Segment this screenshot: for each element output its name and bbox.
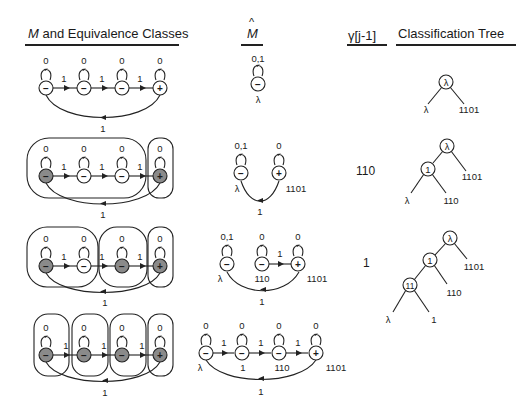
svg-text:−: − (119, 83, 125, 94)
svg-text:1101: 1101 (286, 183, 306, 194)
svg-text:1: 1 (99, 161, 104, 172)
svg-text:λ: λ (256, 94, 261, 105)
svg-text:−: − (43, 261, 49, 272)
svg-text:0: 0 (313, 320, 318, 331)
svg-text:+: + (157, 83, 163, 94)
svg-text:1: 1 (277, 248, 282, 259)
svg-text:0: 0 (239, 320, 244, 331)
svg-text:1: 1 (425, 164, 430, 175)
svg-text:0: 0 (259, 231, 264, 242)
svg-text:0,1: 0,1 (251, 53, 264, 64)
svg-text:1: 1 (99, 251, 104, 262)
svg-text:−: − (81, 261, 87, 272)
svg-text:0: 0 (157, 143, 162, 154)
svg-text:−: − (119, 171, 125, 182)
svg-text:1: 1 (61, 161, 66, 172)
svg-text:+: + (157, 261, 163, 272)
svg-text:0: 0 (203, 320, 208, 331)
svg-text:−: − (255, 79, 261, 90)
svg-text:+: + (295, 259, 301, 270)
svg-text:11: 11 (406, 281, 415, 291)
svg-text:1101: 1101 (326, 362, 346, 373)
svg-text:0: 0 (119, 143, 124, 154)
svg-text:λ: λ (444, 77, 449, 88)
classification-tree-row-2 (411, 139, 466, 193)
svg-text:1: 1 (258, 386, 263, 397)
svg-text:λ: λ (218, 273, 223, 284)
svg-text:−: − (43, 83, 49, 94)
svg-text:0,1: 0,1 (220, 231, 233, 242)
svg-text:0: 0 (157, 55, 162, 66)
svg-text:1: 1 (101, 340, 106, 351)
svg-text:0: 0 (119, 233, 124, 244)
svg-text:0: 0 (81, 233, 86, 244)
svg-text:1: 1 (221, 337, 226, 348)
svg-text:−: − (239, 348, 245, 359)
svg-text:1: 1 (61, 73, 66, 84)
classification-tree-row-3 (393, 231, 467, 312)
svg-text:−: − (43, 350, 49, 361)
m-hat-row-3: − − + 0,1 0 0 1 λ 110 1101 1 (218, 231, 328, 307)
diagram-canvas: − − − + 0 0 0 0 1 1 1 1 − 0,1 λ λ λ 1101 (0, 0, 521, 418)
svg-text:1: 1 (100, 209, 105, 220)
svg-text:110: 110 (254, 273, 269, 284)
svg-text:110: 110 (446, 287, 461, 298)
svg-text:+: + (157, 171, 163, 182)
svg-text:1101: 1101 (464, 261, 484, 272)
svg-text:110: 110 (274, 362, 289, 373)
m-hat-row-2: − + 0,1 0 λ 1101 1 (234, 140, 306, 217)
svg-text:1: 1 (257, 206, 262, 217)
m-hat-row-1: − 0,1 λ (251, 53, 265, 105)
svg-text:1101: 1101 (459, 104, 479, 115)
svg-text:1: 1 (139, 340, 144, 351)
svg-text:1: 1 (431, 314, 436, 325)
svg-text:−: − (81, 83, 87, 94)
svg-text:−: − (119, 350, 125, 361)
svg-text:λ: λ (445, 141, 450, 152)
svg-text:1: 1 (240, 362, 245, 373)
svg-text:−: − (81, 350, 87, 361)
svg-text:0: 0 (43, 143, 48, 154)
svg-text:+: + (157, 350, 163, 361)
svg-text:−: − (81, 171, 87, 182)
svg-text:λ: λ (448, 233, 453, 244)
svg-text:λ: λ (198, 362, 203, 373)
m-automaton-row-2: − − − + 0 0 0 0 1 1 1 1 (27, 138, 173, 220)
svg-text:1: 1 (99, 73, 104, 84)
svg-text:1: 1 (258, 337, 263, 348)
svg-text:0: 0 (43, 233, 48, 244)
svg-text:1: 1 (427, 255, 432, 266)
svg-text:1: 1 (61, 251, 66, 262)
svg-text:−: − (224, 259, 230, 270)
svg-text:+: + (313, 348, 319, 359)
svg-text:1101: 1101 (462, 171, 482, 182)
svg-text:1: 1 (259, 296, 264, 307)
svg-text:1101: 1101 (307, 273, 327, 284)
svg-text:1: 1 (295, 337, 300, 348)
svg-text:0: 0 (43, 322, 48, 333)
svg-text:+: + (276, 168, 282, 179)
m-automaton-row-1: − − − + 0 0 0 0 1 1 1 1 (39, 55, 167, 134)
svg-text:1: 1 (137, 161, 142, 172)
svg-text:1: 1 (137, 73, 142, 84)
svg-text:−: − (203, 348, 209, 359)
svg-text:110: 110 (443, 195, 458, 206)
m-automaton-row-4: − − − + 0 0 0 0 1 1 1 1 (34, 314, 173, 398)
svg-text:1: 1 (137, 251, 142, 262)
m-hat-row-4: − − − + 0 0 0 0 1 1 1 λ 1 110 1101 1 (198, 320, 347, 397)
svg-text:1: 1 (100, 123, 105, 134)
svg-text:λ: λ (235, 183, 240, 194)
svg-text:λ: λ (424, 104, 429, 115)
svg-text:−: − (43, 171, 49, 182)
svg-text:0: 0 (43, 55, 48, 66)
svg-text:0: 0 (276, 140, 281, 151)
svg-text:0: 0 (157, 322, 162, 333)
svg-text:−: − (119, 261, 125, 272)
svg-text:0: 0 (119, 322, 124, 333)
svg-text:0: 0 (81, 55, 86, 66)
svg-text:λ: λ (405, 195, 410, 206)
svg-text:1: 1 (102, 387, 107, 398)
svg-text:0,1: 0,1 (234, 140, 247, 151)
m-automaton-row-3: − − − + 0 0 0 0 1 1 1 1 (27, 227, 173, 308)
svg-text:0: 0 (157, 233, 162, 244)
